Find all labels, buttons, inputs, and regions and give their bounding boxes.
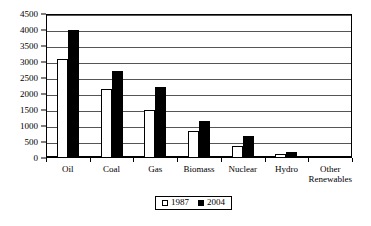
bar-group: [133, 14, 177, 158]
legend-label: 2004: [207, 198, 225, 207]
y-axis: 050010001500200025003000350040004500: [0, 0, 46, 160]
x-tick-mark: [177, 158, 178, 162]
x-tick-mark: [308, 158, 309, 162]
bar-chart: 050010001500200025003000350040004500 Oil…: [0, 0, 371, 226]
x-tick-mark: [90, 158, 91, 162]
x-tick-label: Other Renewables: [308, 164, 351, 184]
x-tick-mark: [133, 158, 134, 162]
bar-1987-gas: [144, 110, 155, 158]
x-tick-mark: [46, 158, 47, 162]
bar-group: [221, 14, 265, 158]
bars-layer: [46, 14, 352, 158]
bar-group: [46, 14, 90, 158]
bar-1987-biomass: [188, 131, 199, 158]
x-tick-mark: [265, 158, 266, 162]
x-tick-mark: [352, 158, 353, 162]
y-tick-label: 0: [34, 154, 39, 163]
bar-group: [177, 14, 221, 158]
legend-item-1987: 1987: [162, 198, 189, 207]
bar-2004-oil: [68, 30, 79, 158]
x-tick-label: Coal: [103, 164, 120, 174]
y-tick-label: 4500: [20, 10, 38, 19]
bar-2004-coal: [112, 71, 123, 158]
bar-1987-coal: [101, 89, 112, 158]
legend-item-2004: 2004: [198, 198, 225, 207]
y-tick-label: 1500: [20, 106, 38, 115]
x-tick-label: Oil: [62, 164, 74, 174]
legend-swatch-black-square: [198, 200, 204, 206]
y-tick-label: 3000: [20, 58, 38, 67]
x-axis: OilCoalGasBiomassNuclearHydroOther Renew…: [46, 158, 352, 198]
x-tick-mark: [221, 158, 222, 162]
bar-2004-biomass: [199, 121, 210, 158]
legend-swatch-white-square: [162, 200, 168, 206]
bar-group: [90, 14, 134, 158]
y-tick-label: 4000: [20, 26, 38, 35]
legend-label: 1987: [171, 198, 189, 207]
bar-group: [265, 14, 309, 158]
y-tick-label: 500: [25, 138, 39, 147]
bar-1987-oil: [57, 59, 68, 158]
y-tick-label: 2000: [20, 90, 38, 99]
bar-2004-gas: [155, 87, 166, 158]
y-tick-label: 1000: [20, 122, 38, 131]
bar-1987-nuclear: [232, 146, 243, 158]
x-tick-label: Biomass: [183, 164, 214, 174]
bar-group: [308, 14, 352, 158]
y-tick-label: 3500: [20, 42, 38, 51]
bar-2004-nuclear: [243, 136, 254, 158]
chart-legend: 1987 2004: [155, 196, 232, 210]
x-tick-label: Hydro: [275, 164, 298, 174]
x-tick-label: Nuclear: [228, 164, 256, 174]
y-tick-label: 2500: [20, 74, 38, 83]
x-tick-label: Gas: [148, 164, 162, 174]
